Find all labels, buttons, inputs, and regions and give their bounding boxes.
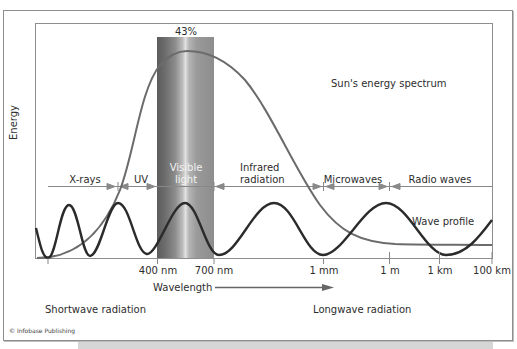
region-label-visible-2: light [175,174,197,185]
wavelength-arrow [215,284,334,291]
region-label-radio-waves: Radio waves [409,174,472,185]
y-axis-label: Energy [8,105,19,140]
region-label-x-rays: X-rays [69,174,100,185]
region-label-visible-1: Visible [170,162,203,173]
region-label-infrared-2: radiation [240,174,285,185]
shortwave-label: Shortwave radiation [45,304,146,315]
visible-light-band [157,37,214,258]
visible-peak-percent: 43% [175,26,197,37]
region-label-microwaves: Microwaves [324,174,383,185]
region-label-infrared-1: Infrared [240,162,279,173]
wave-profile-label: Wave profile [412,216,474,227]
tick-label-100km: 100 km [473,265,511,276]
x-axis-label: Wavelength [153,282,212,293]
sun-curve-label: Sun's energy spectrum [331,78,447,89]
tick-label-1mm: 1 mm [309,265,338,276]
region-label-uv: UV [134,174,148,185]
tick-label-400nm: 400 nm [139,265,177,276]
longwave-label: Longwave radiation [313,304,411,315]
tick-label-1m: 1 m [380,265,399,276]
tick-label-700nm: 700 nm [195,265,233,276]
copyright-credit: © Infobase Publishing [9,327,75,334]
tick-label-1km: 1 km [427,265,452,276]
